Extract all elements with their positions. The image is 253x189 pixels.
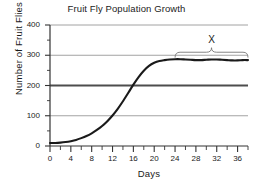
x-tick-label: 12 — [103, 154, 123, 163]
x-tick-label: 0 — [40, 154, 60, 163]
y-tick-label: 400 — [10, 20, 40, 29]
y-tick-label: 0 — [10, 141, 40, 150]
x-tick-label: 20 — [144, 154, 164, 163]
x-tick-label: 8 — [82, 154, 102, 163]
brace-annotation — [175, 48, 248, 58]
brace-label-x: X — [205, 34, 219, 45]
x-tick-label: 32 — [207, 154, 227, 163]
y-axis-ticks — [45, 25, 50, 146]
data-series-line — [50, 59, 248, 143]
x-tick-label: 36 — [228, 154, 248, 163]
x-tick-label: 24 — [165, 154, 185, 163]
x-tick-label: 16 — [123, 154, 143, 163]
x-axis-ticks — [50, 146, 248, 152]
y-tick-label: 100 — [10, 111, 40, 120]
x-tick-label: 4 — [61, 154, 81, 163]
chart-figure: Fruit Fly Population Growth Number of Fr… — [0, 0, 253, 189]
y-tick-label: 200 — [10, 81, 40, 90]
x-tick-label: 28 — [186, 154, 206, 163]
y-tick-label: 300 — [10, 50, 40, 59]
